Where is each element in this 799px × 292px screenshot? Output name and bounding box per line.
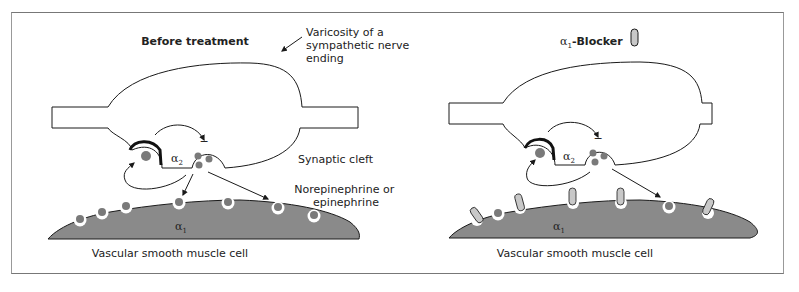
receptor-transmitter (308, 210, 321, 223)
receptor-transmitter (272, 202, 285, 215)
receptor-transmitter (492, 208, 505, 221)
vesicle (196, 162, 203, 169)
panel-alpha1-blocker: α1-Blocker α2 − α1 Vascular smooth muscl… (449, 29, 758, 260)
synaptic-cleft-label: Synaptic cleft (298, 153, 374, 166)
vesicle (592, 159, 599, 166)
receptor-transmitter (120, 201, 133, 214)
inhibition-sign: − (199, 135, 208, 148)
receptor-blocked (615, 188, 627, 209)
receptor-blocked (567, 188, 579, 209)
blocker-legend-icon (631, 29, 638, 46)
panel-before-treatment: Before treatment α2 − Varicosity of a sy… (48, 26, 413, 260)
bound-transmitter (141, 151, 151, 161)
release-arrow (183, 174, 193, 195)
release-arrow (208, 172, 268, 199)
panel-title-blocker: α1-Blocker (560, 35, 623, 50)
nerve-varicosity (449, 62, 712, 165)
varicosity-callout-arrow (282, 37, 302, 51)
transmitter-label: Norepinephrine or epinephrine (294, 183, 397, 209)
diagram-canvas: Before treatment α2 − Varicosity of a sy… (0, 0, 799, 292)
vesicle (601, 153, 608, 160)
panel-title-before: Before treatment (141, 35, 249, 48)
bound-transmitter (535, 148, 545, 158)
vesicle (590, 150, 597, 157)
varicosity-label: Varicosity of a sympathetic nerve ending (306, 26, 413, 65)
receptor-blocked (514, 193, 526, 214)
receptor-transmitter (663, 201, 676, 214)
receptor-transmitter (222, 197, 235, 210)
receptor-transmitter (173, 197, 186, 210)
receptor-transmitter (96, 207, 109, 220)
receptor-transmitter (74, 214, 87, 227)
cell-label-before: Vascular smooth muscle cell (92, 247, 248, 260)
inhibition-sign: − (593, 132, 602, 145)
cell-label-after: Vascular smooth muscle cell (497, 247, 653, 260)
vesicle (206, 156, 213, 163)
vesicle (195, 153, 202, 160)
